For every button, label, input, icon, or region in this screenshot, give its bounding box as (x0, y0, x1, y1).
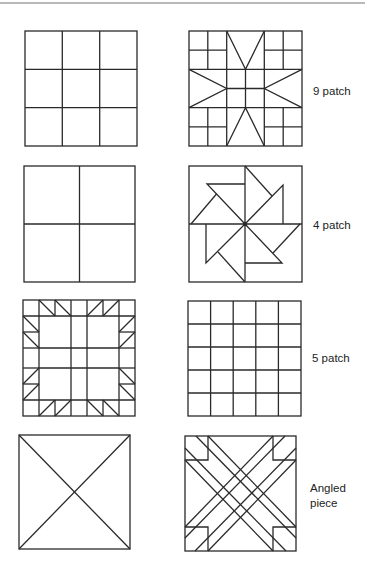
grid-5x5-block (188, 301, 301, 416)
pinwheel-4-patch-block (189, 166, 302, 282)
angled-strips-block (185, 436, 296, 551)
label-5-patch: 5 patch (312, 351, 350, 365)
label-piece: piece (310, 496, 338, 510)
diagonal-x-block (19, 435, 130, 549)
grid-3x3-block (25, 31, 137, 146)
label-angled: Angled (310, 481, 346, 495)
label-4-patch: 4 patch (313, 218, 351, 232)
label-9-patch: 9 patch (313, 84, 351, 98)
star-9-patch-block (189, 31, 302, 146)
grid-2x2-block (24, 166, 135, 282)
sawtooth-border-block (23, 300, 135, 416)
